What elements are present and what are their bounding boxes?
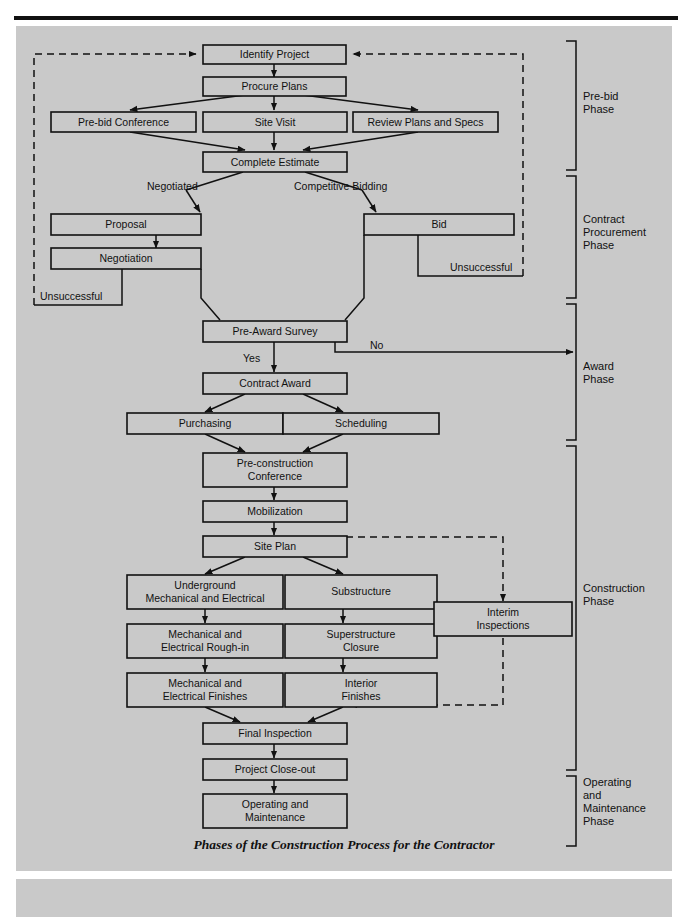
node-label: Contract Award bbox=[239, 377, 311, 389]
edge-scheduling-to-preconstruction bbox=[303, 434, 343, 452]
node-label-line2: Electrical Rough-in bbox=[161, 641, 249, 653]
phase-label-award-line2: Phase bbox=[583, 373, 614, 385]
node-label-line2: Inspections bbox=[476, 619, 529, 631]
node-label: Bid bbox=[431, 218, 446, 230]
node-scheduling[interactable]: Scheduling bbox=[283, 413, 439, 434]
node-negotiation[interactable]: Negotiation bbox=[51, 248, 201, 269]
node-interim-inspections[interactable]: Interim Inspections bbox=[434, 602, 572, 636]
figure-page: Identify Project Procure Plans Pre-bid C… bbox=[0, 0, 688, 917]
node-final-inspection[interactable]: Final Inspection bbox=[203, 723, 347, 744]
phase-label-construction-line2: Phase bbox=[583, 595, 614, 607]
node-label-line1: Interior bbox=[345, 677, 378, 689]
phase-label-prebid-line1: Pre-bid bbox=[583, 90, 618, 102]
edge-unsuccessful-right-return bbox=[353, 54, 523, 276]
node-underground-mechanical-electrical[interactable]: Underground Mechanical and Electrical bbox=[127, 575, 283, 609]
node-label-line1: Superstructure bbox=[327, 628, 396, 640]
node-label: Pre-bid Conference bbox=[78, 116, 169, 128]
node-site-plan[interactable]: Site Plan bbox=[203, 536, 347, 557]
node-mechanical-electrical-roughin[interactable]: Mechanical and Electrical Rough-in bbox=[127, 624, 283, 658]
phase-label-contract-line1: Contract bbox=[583, 213, 625, 225]
node-contract-award[interactable]: Contract Award bbox=[203, 373, 347, 394]
phase-labels: Pre-bid Phase Contract Procurement Phase… bbox=[583, 90, 646, 827]
node-label: Identify Project bbox=[240, 48, 310, 60]
bracket-prebid bbox=[566, 41, 576, 170]
node-label: Project Close-out bbox=[235, 763, 316, 775]
node-identify-project[interactable]: Identify Project bbox=[203, 45, 346, 64]
node-mobilization[interactable]: Mobilization bbox=[203, 501, 347, 522]
node-preconstruction-conference[interactable]: Pre-construction Conference bbox=[203, 453, 347, 487]
node-label: Substructure bbox=[331, 585, 391, 597]
node-mechanical-electrical-finishes[interactable]: Mechanical and Electrical Finishes bbox=[127, 673, 283, 707]
node-complete-estimate[interactable]: Complete Estimate bbox=[203, 152, 347, 172]
edge-procure-to-prebidconf bbox=[130, 95, 245, 110]
node-label-line2: Closure bbox=[343, 641, 379, 653]
phase-label-opmaint-line4: Phase bbox=[583, 815, 614, 827]
phase-label-prebid-line2: Phase bbox=[583, 103, 614, 115]
node-label: Scheduling bbox=[335, 417, 387, 429]
edge-mefinishes-to-final bbox=[205, 707, 240, 722]
phase-label-opmaint-line3: Maintenance bbox=[583, 802, 646, 814]
bracket-operating-maintenance bbox=[566, 776, 576, 846]
node-proposal[interactable]: Proposal bbox=[51, 214, 201, 235]
node-label: Proposal bbox=[105, 218, 146, 230]
node-label: Negotiation bbox=[99, 252, 152, 264]
node-substructure[interactable]: Substructure bbox=[285, 575, 437, 609]
node-label: Review Plans and Specs bbox=[367, 116, 483, 128]
node-label-line2: Finishes bbox=[341, 690, 380, 702]
edge-interiorfinishes-to-final bbox=[308, 707, 343, 722]
nodes: Identify Project Procure Plans Pre-bid C… bbox=[51, 45, 572, 828]
node-interior-finishes[interactable]: Interior Finishes bbox=[285, 673, 437, 707]
edge-siteplan-to-underground bbox=[205, 557, 245, 574]
edge-label-competitive-bidding: Competitive Bidding bbox=[294, 180, 388, 192]
edge-label-yes: Yes bbox=[243, 352, 260, 364]
edge-negotiation-to-preaward bbox=[201, 269, 220, 320]
phase-label-contract-line3: Phase bbox=[583, 239, 614, 251]
edge-reviewplans-to-estimate bbox=[303, 132, 418, 150]
node-site-visit[interactable]: Site Visit bbox=[203, 112, 347, 132]
node-label: Pre-Award Survey bbox=[232, 325, 318, 337]
node-project-closeout[interactable]: Project Close-out bbox=[203, 759, 347, 780]
node-label-line1: Mechanical and bbox=[168, 677, 242, 689]
phase-label-opmaint-line1: Operating bbox=[583, 776, 631, 788]
flowchart-canvas: Identify Project Procure Plans Pre-bid C… bbox=[0, 0, 688, 917]
edge-purchasing-to-preconstruction bbox=[205, 434, 245, 452]
node-pre-award-survey[interactable]: Pre-Award Survey bbox=[203, 321, 347, 342]
phase-label-construction-line1: Construction bbox=[583, 582, 645, 594]
node-purchasing[interactable]: Purchasing bbox=[127, 413, 283, 434]
node-label-line2: Maintenance bbox=[245, 811, 305, 823]
node-review-plans-and-specs[interactable]: Review Plans and Specs bbox=[353, 112, 498, 132]
edge-procure-to-reviewplans bbox=[303, 95, 418, 110]
phase-brackets bbox=[566, 41, 576, 846]
phase-label-award-line1: Award bbox=[583, 360, 614, 372]
edge-estimate-to-bid bbox=[362, 190, 376, 212]
edge-award-to-purchasing bbox=[205, 394, 245, 412]
node-superstructure-closure[interactable]: Superstructure Closure bbox=[285, 624, 437, 658]
bracket-contract-procurement bbox=[566, 176, 576, 298]
edge-label-unsuccessful-right: Unsuccessful bbox=[450, 261, 512, 273]
node-label: Final Inspection bbox=[238, 727, 312, 739]
node-label-line2: Electrical Finishes bbox=[163, 690, 248, 702]
edge-label-unsuccessful-left: Unsuccessful bbox=[40, 290, 102, 302]
node-label: Mobilization bbox=[247, 505, 303, 517]
node-label: Site Plan bbox=[254, 540, 296, 552]
edge-prebidconf-to-estimate bbox=[130, 132, 245, 150]
node-label-line1: Underground bbox=[174, 579, 235, 591]
edge-label-no: No bbox=[370, 339, 384, 351]
edge-label-negotiated: Negotiated bbox=[147, 180, 198, 192]
node-label: Procure Plans bbox=[242, 80, 308, 92]
node-label-line1: Pre-construction bbox=[237, 457, 314, 469]
phase-label-contract-line2: Procurement bbox=[583, 226, 646, 238]
node-label-line2: Conference bbox=[248, 470, 302, 482]
node-label-line1: Interim bbox=[487, 606, 519, 618]
edge-award-to-scheduling bbox=[303, 394, 343, 412]
node-label: Complete Estimate bbox=[231, 156, 320, 168]
edge-bid-to-preaward bbox=[345, 235, 364, 320]
node-operating-and-maintenance[interactable]: Operating and Maintenance bbox=[203, 794, 347, 828]
figure-caption: Phases of the Construction Process for t… bbox=[193, 837, 495, 852]
edge-siteplan-to-substructure bbox=[303, 557, 343, 574]
node-bid[interactable]: Bid bbox=[364, 214, 514, 235]
node-procure-plans[interactable]: Procure Plans bbox=[203, 77, 346, 96]
node-prebid-conference[interactable]: Pre-bid Conference bbox=[51, 112, 196, 132]
node-label-line2: Mechanical and Electrical bbox=[145, 592, 264, 604]
phase-label-opmaint-line2: and bbox=[583, 789, 601, 801]
